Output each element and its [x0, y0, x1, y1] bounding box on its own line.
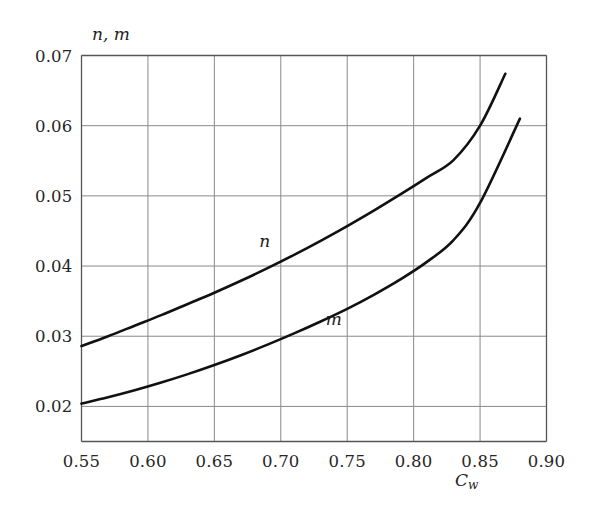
x-axis-title: Cw: [455, 470, 478, 492]
y-tick-label: 0.06: [35, 116, 73, 135]
series-label-m: m: [326, 309, 342, 329]
x-tick-label: 0.75: [328, 452, 366, 471]
plot-frame: [82, 56, 547, 442]
chart-plot-area: [0, 0, 592, 525]
x-tick-label: 0.80: [395, 452, 433, 471]
x-tick-label: 0.60: [129, 452, 167, 471]
x-tick-label: 0.70: [262, 452, 300, 471]
y-tick-label: 0.04: [35, 257, 73, 276]
x-tick-label: 0.55: [63, 452, 101, 471]
y-tick-label: 0.02: [35, 397, 73, 416]
x-tick-label: 0.85: [461, 452, 499, 471]
x-tick-label: 0.90: [528, 452, 566, 471]
curve-n: [82, 74, 506, 346]
x-axis-title-subscript: w: [468, 478, 478, 492]
series-label-n: n: [259, 231, 270, 251]
data-curves: [82, 74, 520, 404]
x-axis-title-base: C: [455, 470, 468, 490]
y-axis-title: n, m: [92, 24, 130, 44]
y-tick-label: 0.03: [35, 327, 73, 346]
x-tick-label: 0.65: [196, 452, 234, 471]
curve-m: [82, 119, 520, 404]
y-tick-label: 0.05: [35, 186, 73, 205]
y-tick-label: 0.07: [35, 46, 73, 65]
figure-container: 0.020.030.040.050.060.07 0.550.600.650.7…: [0, 0, 592, 525]
grid-lines: [82, 56, 547, 442]
